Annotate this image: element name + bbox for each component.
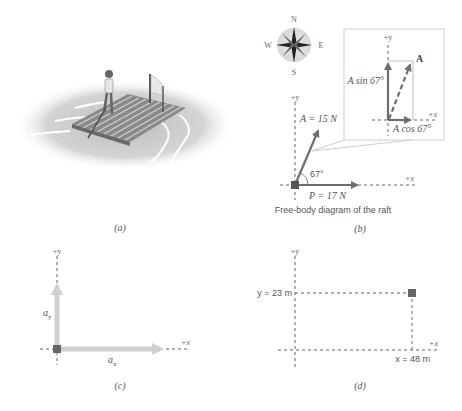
raft-position-point [408,289,416,297]
compass-west: W [264,41,272,50]
panel-a: (a) [13,70,237,234]
compass-south: S [292,68,296,77]
fbd-y-axis-label: +y [291,93,300,102]
panel-c-label: (c) [114,380,126,392]
panel-b: N S W E +y +x A A sin 67° A cos 67° [264,15,444,235]
inset-y-component-label: A sin 67° [346,75,384,86]
inset-x-axis-label: +x [428,110,437,119]
inset-y-axis-label: +y [384,33,393,42]
panel-d: +y +x y = 23 m x = 48 m (d) [257,247,440,392]
x-value-label: x = 48 m [395,354,430,364]
fbd-caption: Free-body diagram of the raft [275,205,392,215]
vector-P-label: P = 17 N [308,190,347,201]
a-y-label: ay [43,307,52,321]
inset-vector-A-label: A [416,53,424,64]
panel-d-label: (d) [354,380,366,392]
raft-point [291,181,299,189]
figure-canvas: (a) N S W E +y +x [0,0,462,411]
c-origin-point [53,345,61,353]
inset-x-component-label: A cos 67° [392,123,431,134]
d-x-axis-label: +x [429,339,438,348]
compass-north: N [291,15,297,24]
vector-A-label: A = 15 N [299,113,338,124]
c-x-axis-label: +x [181,338,190,347]
d-y-axis-label: +y [291,247,300,256]
compass-rose-icon: N S W E [264,15,323,77]
angle-label: 67° [310,169,324,179]
panel-b-label: (b) [354,223,366,235]
panel-c: +y +x ay ax (c) [40,247,190,392]
a-x-label: ax [108,354,117,368]
inset-component-box: +y +x A A sin 67° A cos 67° [312,29,444,151]
y-value-label: y = 23 m [257,288,292,298]
c-y-axis-label: +y [53,247,62,256]
angle-arc [300,173,308,185]
compass-east: E [319,41,324,50]
fbd-x-axis-label: +x [405,174,414,183]
panel-a-label: (a) [114,222,126,234]
